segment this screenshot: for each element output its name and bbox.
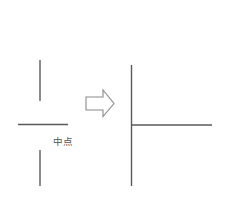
left-figure-group: 中点 bbox=[18, 60, 73, 186]
midpoint-label: 中点 bbox=[53, 136, 73, 147]
midpoint-diagram-canvas: 中点 bbox=[0, 0, 234, 205]
transform-arrow-group bbox=[86, 90, 114, 117]
diagram-svg: 中点 bbox=[0, 0, 234, 205]
right-figure-group bbox=[132, 65, 213, 186]
right-arrow-icon bbox=[86, 90, 114, 117]
